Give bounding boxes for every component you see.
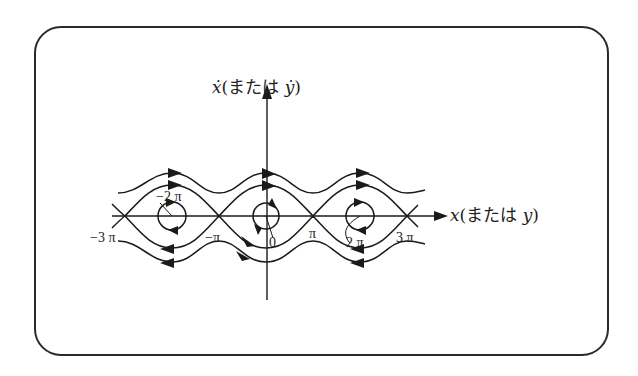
phase-portrait-diagram (0, 0, 638, 376)
tick-label-minus-3pi: −3 π (90, 231, 115, 245)
arrow-left-icon (350, 258, 364, 268)
x-axis-jp-text: または (466, 205, 517, 225)
tick-label-minus-pi: −π (205, 231, 220, 245)
arrow-right-icon (168, 168, 182, 178)
tick-label-minus-2pi: −2 π (156, 190, 181, 204)
paren: ) (532, 205, 539, 225)
arrow-right-icon (262, 168, 276, 179)
arrow-left-icon (160, 244, 174, 254)
tick-label-pi: π (309, 227, 316, 241)
arrow-right-icon (356, 168, 370, 178)
orbit-arrow-icon (268, 198, 277, 209)
tick-label-3pi: 3 π (396, 231, 414, 245)
arrow-right-icon (262, 180, 276, 191)
x-axis-var: x (450, 205, 460, 225)
tick-label-2pi: 2 π (346, 236, 364, 250)
orbit-arrow-icon (168, 226, 178, 235)
x-axis-label: x(または y) (450, 207, 539, 224)
y-axis-var2: ẏ (285, 77, 295, 97)
tick-label-zero: 0 (269, 236, 276, 250)
orbit-arrow-icon (356, 226, 366, 235)
x-axis-var2: y (523, 205, 533, 225)
y-axis-label: ẋ(または ẏ) (212, 79, 301, 96)
paren: ) (294, 77, 301, 97)
y-axis-var: ẋ (212, 77, 222, 97)
arrow-left-icon (160, 258, 174, 268)
y-axis-jp-text: または (228, 77, 279, 97)
arrow-down-right-icon (241, 236, 255, 247)
lower-separatrix (112, 205, 418, 248)
x-axis-arrow-icon (434, 211, 448, 221)
orbit-arrow-icon (354, 198, 364, 207)
arrow-right-icon (356, 180, 370, 190)
